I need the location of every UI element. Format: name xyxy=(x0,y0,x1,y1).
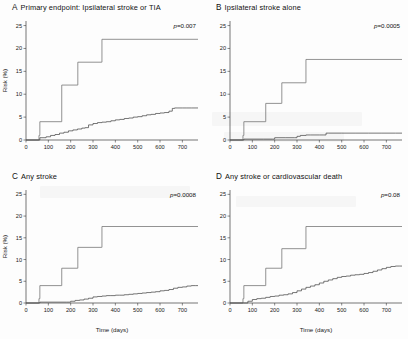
panel-b-pvalue: p=0.0005 xyxy=(374,22,400,29)
svg-text:100: 100 xyxy=(44,144,53,150)
svg-text:400: 400 xyxy=(111,307,120,313)
svg-text:0: 0 xyxy=(228,307,231,313)
panel-c: CAny stroke 0510152025010020030040050060… xyxy=(0,169,204,338)
svg-text:0: 0 xyxy=(228,144,231,150)
svg-text:100: 100 xyxy=(44,307,53,313)
curve-intervention-group xyxy=(230,133,402,140)
svg-text:200: 200 xyxy=(270,307,279,313)
svg-text:400: 400 xyxy=(315,144,324,150)
svg-text:20: 20 xyxy=(220,45,226,51)
svg-text:600: 600 xyxy=(155,307,164,313)
svg-text:20: 20 xyxy=(220,213,226,219)
svg-text:5: 5 xyxy=(19,114,22,120)
svg-text:700: 700 xyxy=(178,307,187,313)
kaplan-meier-figure: APrimary endpoint: Ipsilateral stroke or… xyxy=(0,0,408,339)
svg-text:500: 500 xyxy=(133,144,142,150)
panel-b: BIpsilateral stroke alone 05101520250100… xyxy=(204,0,408,169)
svg-text:400: 400 xyxy=(315,307,324,313)
panel-c-pvalue: p=0.0008 xyxy=(170,191,196,198)
svg-text:25: 25 xyxy=(16,23,22,29)
svg-text:5: 5 xyxy=(19,278,22,284)
svg-text:10: 10 xyxy=(220,257,226,263)
curve-intervention-group xyxy=(26,286,198,303)
svg-text:100: 100 xyxy=(248,307,257,313)
svg-text:0: 0 xyxy=(19,137,22,143)
svg-text:25: 25 xyxy=(220,23,226,29)
svg-text:0: 0 xyxy=(24,144,27,150)
panel-d: DAny stroke or cardiovascular death 0510… xyxy=(204,169,408,338)
svg-text:700: 700 xyxy=(382,144,391,150)
svg-text:200: 200 xyxy=(66,144,75,150)
svg-text:25: 25 xyxy=(16,191,22,197)
curve-intervention-group xyxy=(26,108,198,140)
curve-medical-therapy-group xyxy=(230,59,402,140)
curve-intervention-group xyxy=(230,266,402,303)
panel-a: APrimary endpoint: Ipsilateral stroke or… xyxy=(0,0,204,169)
svg-text:100: 100 xyxy=(248,144,257,150)
svg-text:700: 700 xyxy=(178,144,187,150)
svg-text:20: 20 xyxy=(16,45,22,51)
curve-medical-therapy-group xyxy=(230,227,402,303)
svg-text:500: 500 xyxy=(337,144,346,150)
panel-d-pvalue: p=0.08 xyxy=(381,191,400,198)
svg-text:0: 0 xyxy=(223,300,226,306)
svg-text:15: 15 xyxy=(220,68,226,74)
svg-text:Time (days): Time (days) xyxy=(300,326,332,333)
svg-text:0: 0 xyxy=(223,137,226,143)
svg-text:300: 300 xyxy=(292,144,301,150)
svg-text:500: 500 xyxy=(337,307,346,313)
svg-text:200: 200 xyxy=(66,307,75,313)
svg-text:10: 10 xyxy=(220,91,226,97)
svg-text:300: 300 xyxy=(88,144,97,150)
svg-text:0: 0 xyxy=(19,300,22,306)
curve-medical-therapy-group xyxy=(26,227,198,303)
svg-text:0: 0 xyxy=(24,307,27,313)
svg-text:600: 600 xyxy=(359,307,368,313)
svg-text:Risk (%): Risk (%) xyxy=(1,235,8,258)
svg-text:15: 15 xyxy=(16,235,22,241)
curve-medical-therapy-group xyxy=(26,39,198,140)
svg-text:15: 15 xyxy=(220,235,226,241)
svg-text:15: 15 xyxy=(16,68,22,74)
svg-text:Time (days): Time (days) xyxy=(96,326,128,333)
svg-text:200: 200 xyxy=(270,144,279,150)
svg-text:300: 300 xyxy=(292,307,301,313)
svg-text:700: 700 xyxy=(382,307,391,313)
svg-text:600: 600 xyxy=(359,144,368,150)
svg-text:5: 5 xyxy=(223,114,226,120)
svg-text:500: 500 xyxy=(133,307,142,313)
svg-text:25: 25 xyxy=(220,191,226,197)
svg-text:10: 10 xyxy=(16,257,22,263)
svg-text:20: 20 xyxy=(16,213,22,219)
svg-text:Risk (%): Risk (%) xyxy=(1,69,8,92)
panel-a-pvalue: p=0.007 xyxy=(173,22,196,29)
svg-text:10: 10 xyxy=(16,91,22,97)
svg-text:400: 400 xyxy=(111,144,120,150)
svg-text:5: 5 xyxy=(223,278,226,284)
svg-text:300: 300 xyxy=(88,307,97,313)
svg-text:600: 600 xyxy=(155,144,164,150)
